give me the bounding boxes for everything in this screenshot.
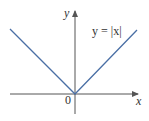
x-axis-label: x <box>135 94 142 108</box>
function-label: y = |x| <box>92 24 122 38</box>
abs-value-graph: y y = |x| 0 x <box>0 0 149 121</box>
abs-value-curve <box>10 29 137 94</box>
origin-label: 0 <box>65 93 71 107</box>
y-axis-label: y <box>63 6 70 20</box>
